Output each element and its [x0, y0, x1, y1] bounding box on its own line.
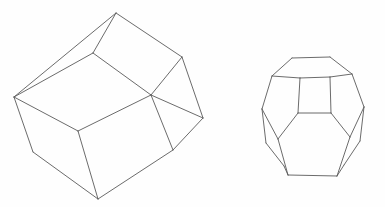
- polyhedron-edge: [262, 109, 266, 143]
- polyhedron-edge: [173, 118, 203, 150]
- right-rhombic-face: [151, 57, 203, 150]
- polyhedron-edge: [98, 150, 173, 199]
- right-hexagonal-face: [330, 74, 364, 137]
- polyhedron-edge: [266, 143, 284, 166]
- left-rhombic-face: [14, 53, 151, 131]
- polyhedron-edge: [292, 57, 330, 58]
- polyhedron-edge: [330, 57, 352, 74]
- polyhedron-edge: [262, 76, 272, 109]
- front-right-face: [78, 95, 173, 199]
- left-polyhedron-group: [14, 13, 203, 199]
- polyhedron-edge: [352, 74, 364, 107]
- polyhedron-edge: [298, 78, 300, 113]
- front-hexagonal-face: [278, 113, 350, 176]
- polyhedron-edge: [78, 131, 98, 199]
- polyhedron-edge: [93, 53, 151, 95]
- polyhedron-edge: [337, 137, 350, 176]
- polyhedron-edge: [78, 95, 151, 131]
- left-hexagonal-face: [262, 76, 300, 139]
- polyhedra-figure-canvas: Two wireframe polyhedra line drawing: [0, 0, 385, 207]
- front-left-face: [14, 97, 98, 199]
- polyhedron-edge: [272, 58, 292, 76]
- polyhedron-edge: [288, 175, 337, 176]
- polyhedron-edge: [278, 139, 288, 175]
- polyhedron-edge: [14, 13, 116, 97]
- top-hexagonal-face: [272, 57, 352, 78]
- polyhedron-edge: [272, 76, 300, 78]
- polyhedron-edge: [182, 57, 203, 118]
- polyhedra-drawing-svg: [0, 0, 385, 207]
- polyhedron-edge: [344, 141, 360, 165]
- polyhedron-edge: [300, 77, 330, 78]
- polyhedron-edge: [116, 13, 182, 57]
- polyhedron-edge: [262, 109, 278, 139]
- right-polyhedron-group: [262, 57, 364, 176]
- polyhedron-edge: [330, 74, 352, 77]
- polyhedron-edge: [330, 77, 331, 113]
- polyhedron-edge: [33, 152, 98, 199]
- polyhedron-edge: [93, 13, 116, 53]
- polyhedron-edge: [151, 57, 182, 95]
- polyhedron-edge: [14, 53, 93, 97]
- polyhedron-edge: [331, 113, 350, 137]
- top-rhombic-face: [93, 13, 182, 95]
- polyhedron-edge: [278, 113, 298, 139]
- front-square-face: [298, 77, 331, 113]
